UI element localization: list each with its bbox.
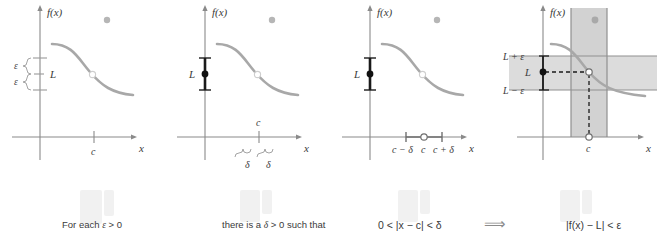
- c-label: c: [421, 144, 426, 155]
- c-minus-delta-label: c − δ: [392, 144, 413, 155]
- y-axis-label: f(x): [550, 6, 566, 19]
- limit-label: L: [353, 68, 360, 80]
- y-axis-arrowhead: [37, 5, 42, 11]
- limit-point: [367, 71, 374, 78]
- panel-delta-band: f(x) x L c δ δ: [165, 0, 330, 190]
- epsilon-lower-label: ε: [14, 77, 18, 87]
- panel-2-graphic: f(x) x L c δ δ: [165, 0, 330, 190]
- l-plus-epsilon-label: L + ε: [502, 51, 524, 62]
- c-label: c: [91, 146, 96, 157]
- caption-conclusion-inequality: |f(x) − L| < ε: [566, 219, 621, 231]
- c-label: c: [256, 117, 261, 128]
- x-axis-label: x: [468, 142, 474, 154]
- limit-label: L: [524, 67, 531, 78]
- epsilon-upper-brace: [23, 58, 31, 74]
- decorative-dot-icon: [592, 17, 599, 24]
- watermark-blob: [560, 190, 580, 222]
- y-axis-label: f(x): [377, 6, 393, 19]
- c-open-point: [586, 134, 592, 140]
- epsilon-upper-label: ε: [14, 61, 18, 71]
- watermark-blob: [398, 190, 418, 222]
- implication-arrow-icon: ⟹: [484, 215, 506, 233]
- caption-2-suffix: > 0 such that: [268, 219, 325, 230]
- function-curve: [52, 44, 133, 95]
- x-axis-label: x: [303, 142, 309, 154]
- hole-point: [89, 71, 95, 77]
- caption-1-suffix: > 0: [106, 219, 122, 230]
- panel-combined-bands: f(x) x L + ε L L − ε c: [495, 0, 657, 190]
- watermark-blob: [262, 190, 272, 214]
- c-open-point: [421, 134, 427, 140]
- limit-point: [540, 69, 547, 76]
- watermark-blob: [240, 190, 260, 222]
- delta-right-label: δ: [266, 159, 271, 170]
- panel-epsilon-band: f(x) x L ε ε c: [0, 0, 165, 190]
- function-curve: [217, 44, 298, 95]
- panel-3-graphic: f(x) x L c − δ c c + δ: [330, 0, 495, 190]
- delta-left-label: δ: [245, 159, 250, 170]
- caption-clause-for-each-epsilon: For each ε > 0: [62, 219, 122, 230]
- y-axis-label: f(x): [47, 6, 63, 19]
- caption-2-prefix: there is a: [222, 219, 264, 230]
- y-axis-label: f(x): [212, 6, 228, 19]
- caption-hypothesis-inequality: 0 < |x − c| < δ: [378, 219, 442, 231]
- epsilon-delta-limit-figure: f(x) x L ε ε c f(x): [0, 0, 657, 252]
- x-axis-label: x: [138, 142, 144, 154]
- watermark-blob: [104, 190, 114, 216]
- delta-left-brace: [235, 149, 251, 157]
- panel-delta-interval: f(x) x L c − δ c c + δ: [330, 0, 495, 190]
- x-axis-arrowhead: [296, 134, 302, 139]
- watermark-blob: [420, 190, 430, 214]
- hole-point: [586, 69, 592, 75]
- caption-band: For each ε > 0 there is a δ > 0 such tha…: [0, 190, 657, 252]
- y-axis-arrowhead: [202, 5, 207, 11]
- x-axis-arrowhead: [638, 134, 644, 139]
- caption-1-prefix: For each: [62, 219, 102, 230]
- hole-point: [254, 71, 260, 77]
- limit-point: [202, 71, 209, 78]
- panel-4-graphic: f(x) x L + ε L L − ε c: [495, 0, 657, 190]
- watermark-blob: [582, 190, 592, 214]
- delta-right-brace: [257, 149, 273, 157]
- limit-label: L: [188, 68, 195, 80]
- c-label: c: [586, 143, 591, 154]
- y-axis-arrowhead: [540, 5, 545, 11]
- x-axis-arrowhead: [131, 134, 137, 139]
- epsilon-lower-brace: [23, 74, 31, 90]
- decorative-dot-icon: [104, 17, 110, 23]
- l-minus-epsilon-label: L − ε: [502, 85, 524, 96]
- caption-clause-there-is-a-delta: there is a δ > 0 such that: [222, 219, 325, 230]
- x-axis-label: x: [645, 142, 651, 154]
- function-curve: [382, 44, 463, 95]
- panel-1-graphic: f(x) x L ε ε c: [0, 0, 165, 190]
- hole-point: [419, 71, 425, 77]
- limit-label: L: [49, 68, 56, 80]
- c-plus-delta-label: c + δ: [433, 144, 454, 155]
- decorative-dot-icon: [269, 17, 275, 23]
- decorative-dot-icon: [434, 17, 440, 23]
- x-axis-arrowhead: [461, 134, 467, 139]
- y-axis-arrowhead: [367, 5, 372, 11]
